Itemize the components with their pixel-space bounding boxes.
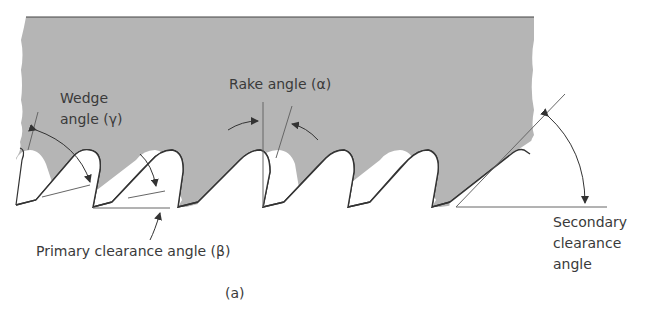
saw-blade-diagram (0, 0, 645, 312)
primary-clearance-label: Primary clearance angle (β) (36, 243, 230, 260)
secondary-clearance-label-line1: Secondary (553, 214, 627, 231)
wedge-angle-label-line2: angle (γ) (60, 111, 123, 128)
wedge-angle-label-line1: Wedge (60, 90, 108, 107)
secondary-clearance-label-line2: clearance (553, 235, 621, 252)
figure-caption: (a) (225, 285, 245, 302)
rake-angle-label: Rake angle (α) (229, 76, 331, 93)
secondary-clearance-label-line3: angle (553, 256, 592, 273)
